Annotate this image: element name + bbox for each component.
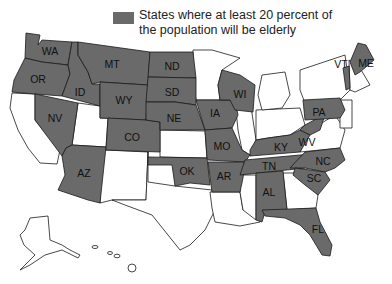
label-ar: AR: [217, 170, 232, 182]
label-fl: FL: [312, 223, 324, 235]
label-nd: ND: [164, 60, 180, 72]
state-ks: [160, 130, 207, 158]
label-pa: PA: [312, 106, 325, 118]
label-ok: OK: [179, 165, 194, 177]
label-id: ID: [75, 86, 86, 98]
label-az: AZ: [77, 167, 91, 179]
state-hi-1: [92, 246, 98, 249]
label-sd: SD: [165, 86, 180, 98]
state-ak: [20, 216, 80, 270]
state-hi-2: [108, 252, 113, 255]
label-ky: KY: [274, 141, 288, 153]
label-mo: MO: [214, 140, 231, 152]
label-wi: WI: [234, 88, 247, 100]
label-sc: SC: [307, 172, 322, 184]
label-mt: MT: [104, 58, 120, 70]
label-ia: IA: [210, 107, 220, 119]
state-hi-3: [114, 254, 120, 258]
label-wy: WY: [116, 94, 133, 106]
label-wv: WV: [299, 136, 316, 148]
label-wa: WA: [42, 45, 59, 57]
state-hi-4: [128, 264, 136, 272]
label-al: AL: [263, 186, 276, 198]
state-mi: [258, 72, 290, 110]
label-nc: NC: [315, 155, 331, 167]
label-tn: TN: [262, 160, 276, 172]
us-map: WA OR ID NV MT WY AZ CO ND SD NE OK IA W…: [0, 0, 392, 284]
label-vt: VT: [334, 58, 348, 70]
label-co: CO: [124, 131, 140, 143]
label-me: ME: [358, 57, 374, 69]
label-or: OR: [30, 73, 46, 85]
state-nm: [100, 150, 148, 203]
label-ne: NE: [167, 112, 182, 124]
label-nv: NV: [48, 112, 63, 124]
